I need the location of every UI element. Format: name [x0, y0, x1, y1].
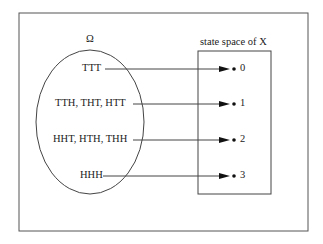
state-value: 3 [240, 170, 245, 181]
state-space-label: state space of X [200, 37, 267, 48]
state-space-box [198, 51, 271, 194]
state-value: 1 [240, 98, 245, 109]
outcome-label: HHH [80, 170, 103, 181]
outcome-label: TTH, THT, HTT [55, 98, 126, 109]
state-value: 2 [240, 134, 245, 145]
outcome-label: TTT [82, 63, 101, 74]
diagram-canvas [0, 0, 323, 244]
arrowheads [219, 66, 236, 179]
omega-label: Ω [86, 34, 94, 45]
mapping-arrows [103, 69, 222, 176]
outcome-label: HHT, HTH, THH [53, 134, 127, 145]
state-value: 0 [240, 63, 245, 74]
